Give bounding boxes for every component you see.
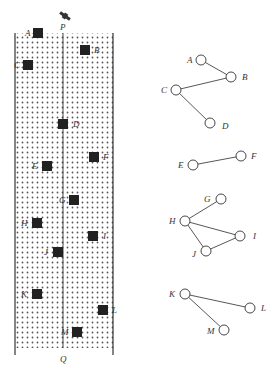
building-square bbox=[58, 119, 68, 129]
node-circle bbox=[236, 151, 246, 161]
diagram-canvas: P Q ABCDEFGHIJKLM ABCDEFGHIJKLM bbox=[0, 0, 272, 368]
node-label: K bbox=[168, 289, 176, 299]
building-label: C bbox=[14, 60, 21, 70]
node-circle bbox=[219, 325, 229, 335]
node-label: J bbox=[192, 249, 197, 259]
node-circle bbox=[201, 246, 211, 256]
node-label: H bbox=[168, 216, 176, 226]
node-label: M bbox=[206, 326, 215, 336]
node-m: M bbox=[206, 325, 229, 336]
node-e: E bbox=[177, 160, 198, 170]
building-label: E bbox=[31, 161, 38, 171]
node-circle bbox=[205, 118, 215, 128]
edge-j-i bbox=[206, 236, 240, 251]
satellite-icon bbox=[58, 10, 71, 22]
building-square bbox=[80, 45, 90, 55]
building-i: I bbox=[88, 231, 107, 241]
edge-c-d bbox=[176, 90, 210, 123]
node-l: L bbox=[245, 303, 266, 313]
building-label: F bbox=[102, 152, 109, 162]
node-label: A bbox=[186, 55, 193, 65]
building-f: F bbox=[89, 152, 109, 162]
node-i: I bbox=[235, 231, 257, 241]
building-g: G bbox=[59, 195, 79, 205]
edge-k-m bbox=[185, 294, 224, 330]
building-label: A bbox=[24, 28, 31, 38]
node-label: L bbox=[260, 303, 266, 313]
node-a: A bbox=[186, 55, 206, 65]
node-label: B bbox=[242, 72, 248, 82]
building-l: L bbox=[98, 305, 117, 315]
node-k: K bbox=[168, 289, 190, 299]
edge-e-f bbox=[193, 156, 241, 165]
node-c: C bbox=[161, 85, 181, 95]
graph-diagram: ABCDEFGHIJKLM bbox=[161, 55, 266, 336]
building-label: K bbox=[20, 289, 28, 299]
building-square bbox=[69, 195, 79, 205]
building-square bbox=[32, 218, 42, 228]
building-b: B bbox=[80, 45, 100, 55]
node-label: D bbox=[221, 121, 229, 131]
node-circle bbox=[188, 160, 198, 170]
node-d: D bbox=[205, 118, 229, 131]
building-label: G bbox=[59, 195, 66, 205]
edge-k-l bbox=[185, 294, 250, 308]
building-square bbox=[89, 152, 99, 162]
node-circle bbox=[196, 55, 206, 65]
node-circle bbox=[180, 216, 190, 226]
label-p: P bbox=[59, 22, 66, 32]
building-square bbox=[72, 327, 82, 337]
node-circle bbox=[226, 72, 236, 82]
building-square bbox=[32, 289, 42, 299]
graph-nodes: ABCDEFGHIJKLM bbox=[161, 55, 266, 336]
corridor-map: P Q ABCDEFGHIJKLM bbox=[14, 10, 117, 364]
edge-g-h bbox=[185, 199, 221, 221]
node-circle bbox=[216, 194, 226, 204]
edge-b-c bbox=[176, 77, 231, 90]
node-j: J bbox=[192, 246, 211, 259]
node-f: F bbox=[236, 151, 257, 161]
node-b: B bbox=[226, 72, 248, 82]
building-c: C bbox=[14, 60, 33, 70]
node-label: E bbox=[177, 160, 184, 170]
edge-h-i bbox=[185, 221, 240, 236]
building-square bbox=[53, 247, 63, 257]
node-circle bbox=[180, 289, 190, 299]
building-label: L bbox=[111, 305, 117, 315]
building-label: D bbox=[72, 119, 80, 129]
building-square bbox=[98, 305, 108, 315]
building-j: J bbox=[44, 247, 63, 257]
building-square bbox=[42, 161, 52, 171]
label-q: Q bbox=[60, 354, 67, 364]
building-square bbox=[33, 28, 43, 38]
node-circle bbox=[235, 231, 245, 241]
node-h: H bbox=[168, 216, 190, 226]
node-label: G bbox=[204, 194, 211, 204]
node-circle bbox=[171, 85, 181, 95]
building-label: B bbox=[94, 45, 100, 55]
building-label: M bbox=[60, 327, 69, 337]
node-circle bbox=[245, 303, 255, 313]
building-square bbox=[23, 60, 33, 70]
building-label: H bbox=[20, 218, 28, 228]
dotted-region bbox=[15, 33, 113, 348]
building-square bbox=[88, 231, 98, 241]
building-a: A bbox=[24, 28, 43, 38]
node-label: I bbox=[252, 231, 257, 241]
node-label: C bbox=[161, 85, 168, 95]
node-label: F bbox=[250, 151, 257, 161]
